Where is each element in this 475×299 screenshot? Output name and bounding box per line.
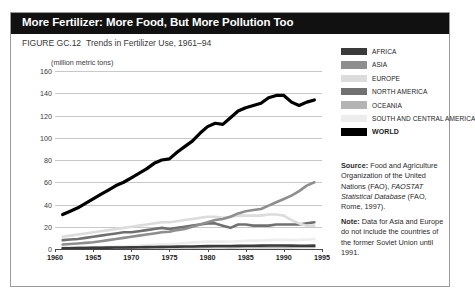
y-axis-tick-label: 60 xyxy=(44,178,52,187)
x-axis-tick-label: 1995 xyxy=(314,253,330,262)
legend-item: ASIA xyxy=(341,59,445,70)
chart-series-layer xyxy=(55,71,322,249)
x-axis-tick-label: 1965 xyxy=(85,253,101,262)
legend-swatch xyxy=(341,101,367,109)
chart-legend: AFRICAASIAEUROPENORTH AMERICAOCEANIASOUT… xyxy=(341,46,445,140)
y-axis-tick-label: 40 xyxy=(44,200,52,209)
y-axis-units-label: (million metric tons) xyxy=(51,58,113,67)
chart-plot-area: (million metric tons) 020406080100120140… xyxy=(29,58,329,273)
x-axis-tick-label: 1960 xyxy=(47,253,63,262)
source-label: Source: xyxy=(341,161,368,170)
figure-caption: FIGURE GC.12Trends in Fertilizer Use, 19… xyxy=(22,38,211,48)
legend-item: SOUTH AND CENTRAL AMERICA xyxy=(341,113,445,124)
legend-swatch xyxy=(341,61,367,69)
legend-swatch xyxy=(341,115,367,123)
x-axis-tick-mark xyxy=(131,249,132,252)
legend-swatch xyxy=(341,88,367,96)
data-note: Note: Data for Asia and Europe do not in… xyxy=(341,217,447,258)
figure-number: FIGURE GC.12 xyxy=(22,38,81,48)
legend-swatch xyxy=(341,75,367,83)
legend-label: AFRICA xyxy=(372,48,396,55)
x-axis-tick-label: 1970 xyxy=(123,253,139,262)
x-axis-tick-label: 1975 xyxy=(161,253,177,262)
source-note-block: Source: Food and Agriculture Organizatio… xyxy=(341,161,447,262)
y-axis-tick-label: 100 xyxy=(40,133,52,142)
y-axis-tick-label: 80 xyxy=(44,156,52,165)
legend-item: WORLD xyxy=(341,126,445,137)
x-axis-tick-mark xyxy=(284,249,285,252)
y-axis-tick-label: 160 xyxy=(40,67,52,76)
legend-item: AFRICA xyxy=(341,46,445,57)
figure-container: More Fertilizer: More Food, But More Pol… xyxy=(10,12,450,287)
page-title: More Fertilizer: More Food, But More Pol… xyxy=(22,16,293,28)
legend-label: SOUTH AND CENTRAL AMERICA xyxy=(372,115,475,122)
legend-item: EUROPE xyxy=(341,73,445,84)
figure-title-bar: More Fertilizer: More Food, But More Pol… xyxy=(11,13,449,34)
x-axis-line xyxy=(55,249,322,250)
x-axis-tick-mark xyxy=(55,249,56,252)
series-line xyxy=(63,95,315,214)
source-note: Source: Food and Agriculture Organizatio… xyxy=(341,161,447,213)
x-axis-tick-mark xyxy=(246,249,247,252)
legend-swatch xyxy=(341,48,367,56)
x-axis: 19601965197019751980198519901995 xyxy=(55,249,322,269)
legend-label: EUROPE xyxy=(372,75,400,82)
x-axis-tick-label: 1980 xyxy=(200,253,216,262)
note-label: Note: xyxy=(341,217,360,226)
y-axis-tick-label: 20 xyxy=(44,222,52,231)
legend-item: NORTH AMERICA xyxy=(341,86,445,97)
x-axis-tick-label: 1990 xyxy=(276,253,292,262)
figure-caption-text: Trends in Fertilizer Use, 1961–94 xyxy=(86,38,211,48)
legend-label: WORLD xyxy=(372,128,399,135)
legend-item: OCEANIA xyxy=(341,100,445,111)
legend-label: ASIA xyxy=(372,61,387,68)
chart-canvas: 020406080100120140160 xyxy=(55,71,322,249)
x-axis-tick-mark xyxy=(208,249,209,252)
y-axis-tick-label: 140 xyxy=(40,89,52,98)
legend-label: OCEANIA xyxy=(372,102,402,109)
x-axis-tick-mark xyxy=(322,249,323,252)
x-axis-tick-label: 1985 xyxy=(238,253,254,262)
x-axis-tick-mark xyxy=(169,249,170,252)
x-axis-tick-mark xyxy=(93,249,94,252)
y-axis-tick-label: 120 xyxy=(40,111,52,120)
legend-swatch xyxy=(341,128,367,136)
legend-label: NORTH AMERICA xyxy=(372,88,427,95)
